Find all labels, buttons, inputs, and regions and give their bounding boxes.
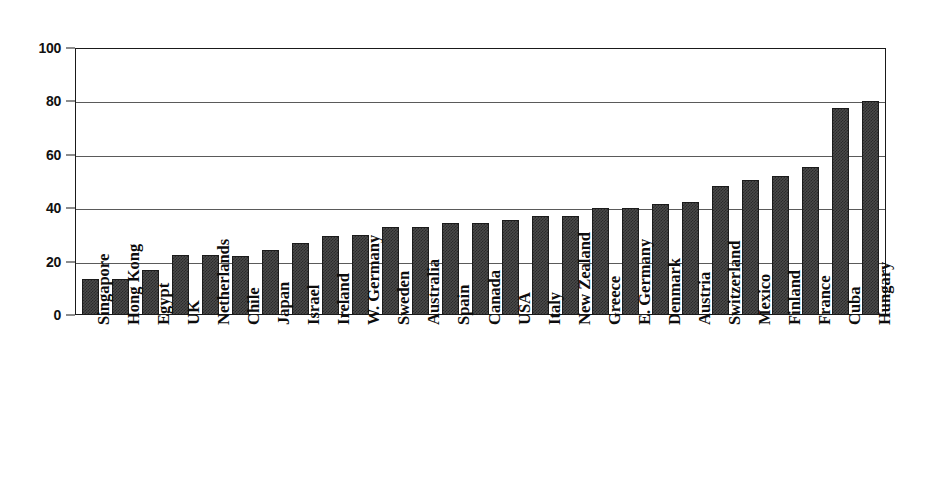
x-tick-label-australia: Australia (426, 259, 443, 325)
y-tick-label-80: 80 (46, 93, 61, 109)
bar-chart: 020406080100 SingaporeHong KongEgyptUKNe… (0, 0, 927, 489)
y-tick-mark-80 (66, 101, 75, 102)
y-tick-mark-60 (66, 154, 75, 155)
y-tick-mark-0 (66, 315, 75, 316)
y-tick-label-60: 60 (46, 147, 61, 163)
bar-cuba (832, 108, 849, 315)
x-tick-label-usa: USA (517, 292, 534, 325)
x-tick-label-e-germany: E. Germany (637, 239, 654, 325)
x-tick-label-spain: Spain (456, 285, 473, 325)
x-tick-label-japan: Japan (276, 282, 293, 325)
x-tick-label-w-germany: W. Germany (366, 235, 383, 325)
y-tick-mark-100 (66, 48, 75, 49)
x-tick-label-canada: Canada (487, 270, 504, 325)
x-tick-label-denmark: Denmark (667, 258, 684, 325)
y-tick-label-20: 20 (46, 254, 61, 270)
x-axis: SingaporeHong KongEgyptUKNetherlandsChil… (75, 315, 886, 489)
x-tick-label-egypt: Egypt (156, 283, 173, 325)
x-tick-label-sweden: Sweden (396, 271, 413, 325)
x-tick-label-finland: Finland (787, 270, 804, 325)
x-tick-label-austria: Austria (697, 272, 714, 325)
x-tick-label-cuba: Cuba (847, 286, 864, 325)
x-tick-label-chile: Chile (246, 287, 263, 325)
x-tick-label-mexico: Mexico (757, 274, 774, 325)
y-tick-label-40: 40 (46, 200, 61, 216)
x-tick-label-new-zealand: New Zealand (577, 232, 594, 325)
y-axis: 020406080100 (0, 0, 75, 489)
y-tick-mark-40 (66, 208, 75, 209)
x-tick-label-israel: Israel (306, 285, 323, 325)
x-tick-label-italy: Italy (547, 292, 564, 325)
x-tick-label-uk: UK (186, 300, 203, 325)
x-tick-label-hong-kong: Hong Kong (126, 244, 143, 325)
x-tick-label-netherlands: Netherlands (216, 239, 233, 325)
x-tick-label-ireland: Ireland (336, 273, 353, 325)
x-tick-label-singapore: Singapore (96, 254, 113, 325)
x-tick-label-hungary: Hungary (877, 262, 894, 325)
y-tick-label-0: 0 (54, 307, 62, 323)
y-tick-label-100: 100 (39, 40, 61, 56)
y-tick-mark-20 (66, 261, 75, 262)
x-tick-label-switzerland: Switzerland (727, 241, 744, 325)
x-tick-label-france: France (817, 276, 834, 325)
x-tick-label-greece: Greece (607, 276, 624, 325)
